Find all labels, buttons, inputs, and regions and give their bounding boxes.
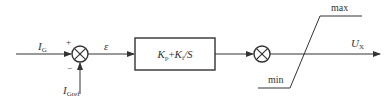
summing-junction-1: + − xyxy=(66,37,88,73)
reference-label: IGref xyxy=(62,84,80,98)
output-label: UX xyxy=(351,37,364,51)
controller-label: Kp+Ki/S xyxy=(157,48,193,62)
minus-sign: − xyxy=(67,63,72,73)
min-label: min xyxy=(268,74,284,85)
error-signal: ε xyxy=(88,40,134,54)
plus-sign: + xyxy=(66,37,71,47)
input-label: IG xyxy=(37,40,47,54)
summing-junction-2 xyxy=(254,46,270,62)
pi-controller-block: Kp+Ki/S xyxy=(135,38,215,70)
input-signal: IG xyxy=(16,40,71,54)
error-label: ε xyxy=(104,40,109,52)
output-signal: UX xyxy=(270,37,380,54)
max-label: max xyxy=(331,2,348,13)
saturation-limiter: max min xyxy=(258,2,362,88)
pi-control-diagram: IG + − IGref ε Kp+Ki/S UX max min xyxy=(0,0,392,101)
